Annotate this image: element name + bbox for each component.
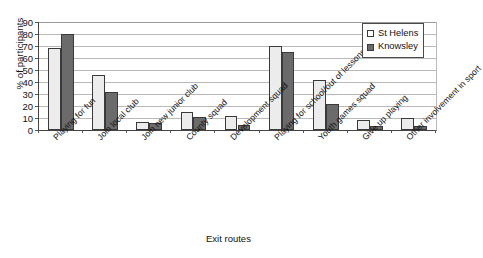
- y-axis-tick-label: 20: [22, 101, 33, 112]
- x-axis-tick-mark: [214, 130, 215, 133]
- x-axis-tick-mark: [38, 130, 39, 133]
- x-axis-tick-mark: [126, 130, 127, 133]
- x-axis-tick-mark: [435, 130, 436, 133]
- x-axis-title: Exit routes: [206, 233, 251, 244]
- x-axis-tick-mark: [259, 130, 260, 133]
- y-axis-tick-label: 0: [28, 125, 33, 136]
- x-axis-tick-mark: [170, 130, 171, 133]
- y-axis-tick-label: 70: [22, 41, 33, 52]
- y-axis-tick-label: 50: [22, 65, 33, 76]
- gridline: [39, 70, 436, 71]
- y-axis-tick-label: 30: [22, 89, 33, 100]
- bar-0-0: [48, 48, 61, 130]
- y-axis-tick-label: 40: [22, 77, 33, 88]
- x-axis-tick-mark: [391, 130, 392, 133]
- y-axis-tick-label: 60: [22, 53, 33, 64]
- x-axis-tick-mark: [347, 130, 348, 133]
- legend-swatch-icon-st-helens: [367, 30, 374, 37]
- legend-item-st-helens: St Helens: [367, 27, 418, 40]
- y-axis-tick-label: 10: [22, 113, 33, 124]
- x-axis-tick-mark: [303, 130, 304, 133]
- legend-swatch-icon-knowsley: [367, 44, 374, 51]
- legend-label-knowsley: Knowsley: [378, 40, 418, 53]
- legend-item-knowsley: Knowsley: [367, 40, 418, 53]
- y-axis-tick-label: 90: [22, 17, 33, 28]
- gridline: [39, 58, 436, 59]
- legend-label-st-helens: St Helens: [378, 27, 418, 40]
- chart-legend: St Helens Knowsley: [362, 23, 424, 58]
- x-axis-tick-mark: [82, 130, 83, 133]
- y-axis-tick-label: 80: [22, 29, 33, 40]
